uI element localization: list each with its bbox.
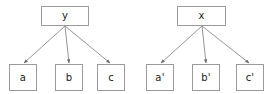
edge-node-x-to-node-b-prime [202, 26, 206, 63]
root-node-x[interactable]: x [177, 6, 226, 26]
edge-node-x-to-node-c-prime [202, 26, 249, 63]
leaf-node-c[interactable]: c [97, 64, 125, 91]
leaf-node-b-prime[interactable]: b' [192, 64, 220, 91]
leaf-node-b[interactable]: b [55, 64, 83, 91]
edge-node-y-to-node-c [65, 26, 110, 63]
node-label: x [198, 11, 204, 21]
node-label: y [62, 11, 68, 21]
node-label: b [66, 73, 73, 83]
leaf-node-a-prime[interactable]: a' [146, 64, 174, 91]
edge-group [24, 26, 249, 63]
node-label: a' [155, 73, 164, 83]
leaf-node-a[interactable]: a [9, 64, 37, 91]
root-node-y[interactable]: y [41, 6, 89, 26]
leaf-node-c-prime[interactable]: c' [236, 64, 264, 91]
node-label: c [108, 73, 114, 83]
diagram-canvas: yabcxa'b'c' [0, 0, 272, 94]
edge-node-y-to-node-b [65, 26, 69, 63]
node-label: a [20, 73, 26, 83]
node-label: b' [201, 73, 211, 83]
node-label: c' [246, 73, 255, 83]
edge-node-x-to-node-a-prime [161, 26, 202, 63]
edge-node-y-to-node-a [24, 26, 65, 63]
